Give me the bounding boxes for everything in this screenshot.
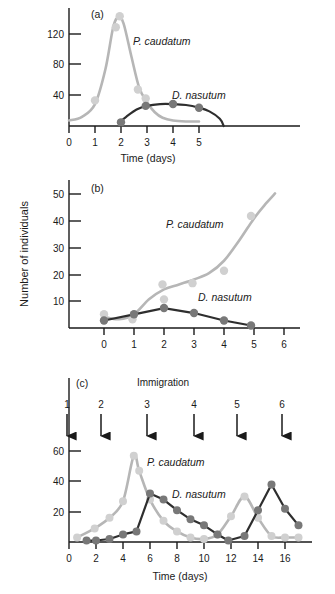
immigration-arrow-4: 4 xyxy=(191,399,197,436)
data-point xyxy=(130,452,138,460)
panel-b-xtick-4: 4 xyxy=(221,339,227,350)
panel-a-label-prey: P. caudatum xyxy=(133,35,191,47)
data-point xyxy=(130,310,138,318)
data-point xyxy=(241,532,249,540)
panel-c-xtick-16: 16 xyxy=(279,553,291,564)
data-point xyxy=(241,493,249,501)
data-point xyxy=(247,321,255,329)
data-point xyxy=(281,533,289,541)
data-point xyxy=(119,497,127,505)
data-point xyxy=(220,316,228,324)
data-point xyxy=(135,467,143,475)
data-point xyxy=(106,514,114,522)
immigration-arrow-label-4: 4 xyxy=(191,399,197,410)
immigration-arrow-2: 2 xyxy=(98,399,104,436)
panel-a-label-predator: D. nasutum xyxy=(172,89,226,101)
panel-b-ytick-10: 10 xyxy=(53,296,65,307)
y-axis-label: Number of individuals xyxy=(18,201,30,307)
panel-c-xtick-4: 4 xyxy=(120,553,126,564)
data-point xyxy=(100,316,108,324)
immigration-arrow-6: 6 xyxy=(279,399,285,436)
panel-b-prey-series xyxy=(100,193,275,323)
panel-a-xtick-2: 2 xyxy=(118,137,124,148)
panel-b-label-predator: D. nasutum xyxy=(198,291,252,303)
panel-c-xtick-6: 6 xyxy=(147,553,153,564)
data-point xyxy=(268,532,276,540)
data-point xyxy=(268,480,276,488)
panel-c-xtick-8: 8 xyxy=(174,553,180,564)
panel-b-chart: (b) Number of individuals 50 40 30 20 10… xyxy=(0,170,335,360)
data-point xyxy=(158,280,166,288)
panel-c-xtick-0: 0 xyxy=(66,553,72,564)
panel-a-ytick-120: 120 xyxy=(47,29,64,40)
data-point xyxy=(92,536,100,544)
data-point xyxy=(83,536,91,544)
panel-b-ytick-40: 40 xyxy=(53,216,65,227)
data-point xyxy=(116,12,124,20)
panel-a-chart: (a) 120 80 40 0 1 2 3 4 5 Time (days) P.… xyxy=(0,0,335,170)
panel-a-predator-series xyxy=(117,100,224,127)
data-point xyxy=(187,533,195,541)
immigration-arrow-label-2: 2 xyxy=(98,399,104,410)
data-point xyxy=(142,94,150,102)
data-point xyxy=(187,515,195,523)
panel-c: (c) Immigration 1 2 3 4 5 xyxy=(0,360,335,594)
data-point xyxy=(133,527,141,535)
data-point xyxy=(220,267,228,275)
data-point xyxy=(160,517,168,525)
panel-c-label-prey: P. caudatum xyxy=(147,456,205,468)
data-point xyxy=(169,100,177,108)
panel-c-letter: (c) xyxy=(76,377,88,389)
panel-b-xtick-0: 0 xyxy=(101,339,107,350)
panel-c-xtick-14: 14 xyxy=(252,553,264,564)
data-point xyxy=(224,536,232,544)
data-point xyxy=(195,104,203,112)
panel-c-xlabel: Time (days) xyxy=(152,570,207,582)
data-point xyxy=(160,304,168,312)
panel-a-ytick-80: 80 xyxy=(53,59,65,70)
data-point xyxy=(254,506,262,514)
panel-c-xtick-2: 2 xyxy=(93,553,99,564)
immigration-arrow-group: 1 2 3 4 5 6 xyxy=(64,399,285,436)
panel-c-xtick-12: 12 xyxy=(225,553,237,564)
panel-b-xtick-2: 2 xyxy=(161,339,167,350)
panel-b-letter: (b) xyxy=(91,182,104,194)
panel-c-xtick-10: 10 xyxy=(198,553,210,564)
panel-b: (b) Number of individuals 50 40 30 20 10… xyxy=(0,170,335,360)
data-point xyxy=(188,279,196,287)
data-point xyxy=(281,505,289,513)
panel-b-predator-series xyxy=(100,304,255,330)
data-point xyxy=(160,295,168,303)
data-point xyxy=(112,23,120,31)
panel-b-xtick-3: 3 xyxy=(191,339,197,350)
data-point xyxy=(214,530,222,538)
data-point xyxy=(73,533,81,541)
data-point xyxy=(247,212,255,220)
panel-a-axes xyxy=(69,8,300,133)
data-point xyxy=(117,118,125,126)
panel-a-letter: (a) xyxy=(91,8,104,20)
panel-c-ytick-20: 20 xyxy=(53,507,65,518)
immigration-arrow-label-5: 5 xyxy=(234,399,240,410)
immigration-arrow-label-1: 1 xyxy=(64,399,70,410)
data-point xyxy=(173,527,181,535)
data-point xyxy=(160,496,168,504)
immigration-title: Immigration xyxy=(137,377,189,388)
panel-b-xtick-6: 6 xyxy=(281,339,287,350)
data-point xyxy=(146,490,154,498)
panel-b-xtick-5: 5 xyxy=(251,339,257,350)
panel-c-chart: (c) Immigration 1 2 3 4 5 xyxy=(0,360,335,594)
panel-c-ytick-60: 60 xyxy=(53,446,65,457)
panel-a-xtick-3: 3 xyxy=(144,137,150,148)
data-point xyxy=(295,521,303,529)
panel-a-xtick-4: 4 xyxy=(170,137,176,148)
data-point xyxy=(190,309,198,317)
immigration-arrow-label-6: 6 xyxy=(279,399,285,410)
data-point xyxy=(227,512,235,520)
immigration-arrow-5: 5 xyxy=(234,399,240,436)
panel-a-xlabel: Time (days) xyxy=(120,152,175,164)
data-point xyxy=(119,530,127,538)
data-point xyxy=(295,533,303,541)
panel-a-xtick-0: 0 xyxy=(66,137,72,148)
panel-a-ytick-40: 40 xyxy=(53,90,65,101)
